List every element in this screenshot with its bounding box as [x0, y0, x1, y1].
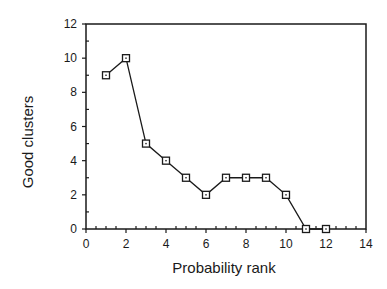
- y-tick-label: 12: [64, 17, 78, 31]
- marker-dot: [165, 160, 166, 161]
- marker-dot: [285, 194, 286, 195]
- x-tick-label: 6: [203, 237, 210, 251]
- x-tick-label: 4: [163, 237, 170, 251]
- y-tick-label: 6: [70, 120, 77, 134]
- marker-dot: [225, 177, 226, 178]
- y-tick-label: 10: [64, 51, 78, 65]
- marker-dot: [125, 57, 126, 58]
- x-tick-label: 2: [123, 237, 130, 251]
- line-chart: 024681012 02468101214 Good clusters Prob…: [0, 0, 387, 289]
- marker-dot: [145, 143, 146, 144]
- marker-dot: [305, 228, 306, 229]
- x-tick-label: 0: [83, 237, 90, 251]
- x-tick-label: 8: [243, 237, 250, 251]
- x-tick-label: 14: [359, 237, 373, 251]
- series-line: [106, 58, 326, 229]
- x-axis-title: Probability rank: [172, 259, 276, 276]
- marker-dot: [245, 177, 246, 178]
- marker-dot: [325, 228, 326, 229]
- marker-dot: [265, 177, 266, 178]
- chart: 024681012 02468101214 Good clusters Prob…: [0, 0, 387, 289]
- marker-dot: [205, 194, 206, 195]
- data-series: [103, 55, 330, 233]
- y-tick-label: 2: [70, 188, 77, 202]
- y-axis-title: Good clusters: [19, 96, 36, 189]
- marker-dot: [105, 75, 106, 76]
- y-tick-label: 0: [70, 222, 77, 236]
- y-axis: 024681012: [64, 17, 89, 236]
- x-tick-label: 10: [279, 237, 293, 251]
- y-tick-label: 8: [70, 85, 77, 99]
- x-tick-label: 12: [319, 237, 333, 251]
- y-tick-label: 4: [70, 154, 77, 168]
- marker-dot: [185, 177, 186, 178]
